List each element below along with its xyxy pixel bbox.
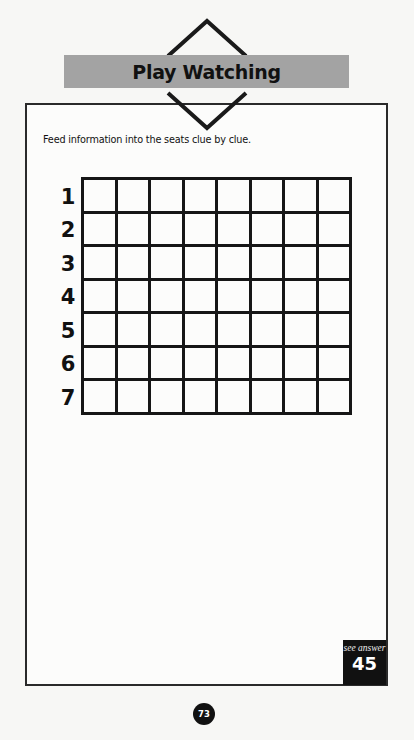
page-number-badge: 73 — [193, 703, 215, 725]
seat-cell[interactable] — [252, 348, 283, 379]
seat-cell[interactable] — [319, 381, 350, 412]
seat-cell[interactable] — [84, 348, 115, 379]
answer-page-number: 45 — [352, 654, 377, 674]
seat-cell[interactable] — [252, 247, 283, 278]
seat-cell[interactable] — [218, 281, 249, 312]
title-banner: Play Watching — [64, 55, 349, 88]
seat-cell[interactable] — [252, 314, 283, 345]
seat-cell[interactable] — [151, 381, 182, 412]
seat-cell[interactable] — [319, 214, 350, 245]
seat-cell[interactable] — [319, 281, 350, 312]
row-label: 2 — [58, 214, 78, 248]
seat-cell[interactable] — [185, 180, 216, 211]
row-label: 7 — [58, 381, 78, 415]
seat-cell[interactable] — [84, 381, 115, 412]
seat-cell[interactable] — [185, 348, 216, 379]
seat-cell[interactable] — [118, 348, 149, 379]
seat-cell[interactable] — [151, 314, 182, 345]
seat-cell[interactable] — [84, 281, 115, 312]
seat-cell[interactable] — [84, 214, 115, 245]
seat-cell[interactable] — [118, 281, 149, 312]
seat-cell[interactable] — [319, 247, 350, 278]
seat-cell[interactable] — [218, 214, 249, 245]
seat-cell[interactable] — [185, 314, 216, 345]
seat-cell[interactable] — [185, 214, 216, 245]
seat-cell[interactable] — [285, 180, 316, 211]
seat-cell[interactable] — [285, 314, 316, 345]
seat-cell[interactable] — [218, 247, 249, 278]
seat-grid — [81, 177, 352, 415]
seat-cell[interactable] — [151, 348, 182, 379]
seat-cell[interactable] — [151, 214, 182, 245]
seat-cell[interactable] — [185, 247, 216, 278]
seat-cell[interactable] — [252, 381, 283, 412]
seat-cell[interactable] — [218, 180, 249, 211]
seat-cell[interactable] — [252, 281, 283, 312]
see-answer-badge: see answer 45 — [343, 640, 386, 685]
seat-cell[interactable] — [285, 281, 316, 312]
seat-cell[interactable] — [84, 247, 115, 278]
seat-cell[interactable] — [285, 247, 316, 278]
see-answer-label: see answer — [344, 643, 386, 653]
instruction-text: Feed information into the seats clue by … — [43, 133, 251, 146]
seat-cell[interactable] — [118, 247, 149, 278]
seat-cell[interactable] — [84, 314, 115, 345]
row-labels: 1 2 3 4 5 6 7 — [58, 180, 78, 415]
seat-cell[interactable] — [118, 314, 149, 345]
seat-cell[interactable] — [151, 180, 182, 211]
seat-cell[interactable] — [252, 180, 283, 211]
seat-cell[interactable] — [218, 314, 249, 345]
page-title: Play Watching — [132, 61, 280, 83]
seat-cell[interactable] — [319, 180, 350, 211]
row-label: 3 — [58, 247, 78, 281]
seat-cell[interactable] — [185, 381, 216, 412]
row-label: 4 — [58, 281, 78, 315]
seat-cell[interactable] — [118, 381, 149, 412]
seat-cell[interactable] — [285, 348, 316, 379]
seat-cell[interactable] — [185, 281, 216, 312]
seat-cell[interactable] — [252, 214, 283, 245]
seat-cell[interactable] — [218, 348, 249, 379]
row-label: 5 — [58, 314, 78, 348]
seat-cell[interactable] — [151, 247, 182, 278]
row-label: 6 — [58, 348, 78, 382]
seat-cell[interactable] — [319, 314, 350, 345]
seat-cell[interactable] — [151, 281, 182, 312]
seat-cell[interactable] — [118, 180, 149, 211]
seat-cell[interactable] — [285, 214, 316, 245]
page-number: 73 — [198, 709, 210, 719]
seat-cell[interactable] — [118, 214, 149, 245]
chevron-down-icon — [165, 91, 249, 131]
seat-cell[interactable] — [84, 180, 115, 211]
row-label: 1 — [58, 180, 78, 214]
chevron-up-icon — [165, 18, 249, 58]
seat-cell[interactable] — [285, 381, 316, 412]
seat-cell[interactable] — [319, 348, 350, 379]
seat-cell[interactable] — [218, 381, 249, 412]
